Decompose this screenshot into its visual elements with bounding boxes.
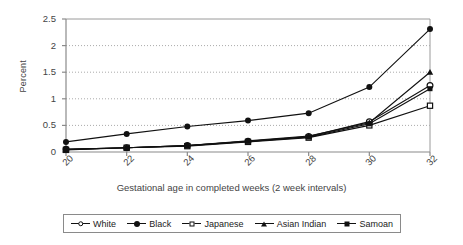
marker-glyph-icon xyxy=(189,221,194,226)
series-black xyxy=(63,26,433,145)
marker-glyph-icon xyxy=(344,221,349,226)
legend-marker-japanese-icon xyxy=(182,219,201,228)
marker-glyph-icon xyxy=(134,221,140,227)
legend-label: Asian Indian xyxy=(277,219,327,229)
marker-glyph-icon xyxy=(261,221,267,226)
legend-item-white[interactable]: White xyxy=(71,219,116,229)
legend-marker-samoan-icon xyxy=(337,219,356,228)
x-axis-label: Gestational age in completed weeks (2 we… xyxy=(0,182,463,193)
legend-label: White xyxy=(93,219,116,229)
legend-label: Samoan xyxy=(359,219,393,229)
chart-legend: WhiteBlackJapaneseAsian IndianSamoan xyxy=(63,214,401,233)
marker-glyph-icon xyxy=(78,221,84,227)
legend-marker-white-icon xyxy=(71,219,90,228)
legend-marker-black-icon xyxy=(127,219,146,228)
chart-container: Percent 00.511.522.5 20222426283032 Gest… xyxy=(0,0,463,245)
plot-area xyxy=(0,0,463,245)
legend-item-asian-indian[interactable]: Asian Indian xyxy=(255,219,327,229)
series-japanese xyxy=(63,103,432,152)
legend-label: Japanese xyxy=(204,219,243,229)
legend-item-japanese[interactable]: Japanese xyxy=(182,219,243,229)
legend-item-samoan[interactable]: Samoan xyxy=(337,219,393,229)
legend-label: Black xyxy=(149,219,171,229)
legend-marker-asian-indian-icon xyxy=(255,219,274,228)
legend-item-black[interactable]: Black xyxy=(127,219,171,229)
